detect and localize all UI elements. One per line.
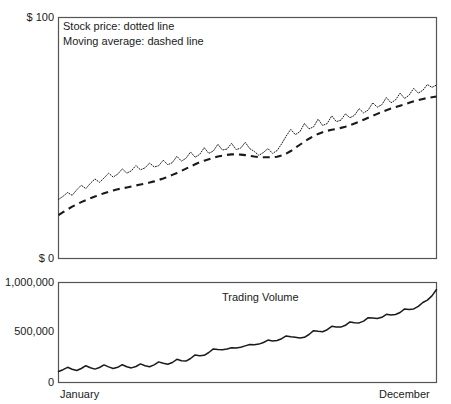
volume-axis-top-label: 1,000,000 — [0, 276, 54, 288]
volume-axis-bottom-label: 0 — [0, 376, 54, 388]
price-axis-top-label: $ 100 — [6, 11, 54, 23]
x-axis-end-label: December — [379, 388, 430, 400]
price-axis-bottom-label: $ 0 — [6, 252, 54, 264]
chart-canvas — [0, 0, 451, 404]
volume-axis-mid-label: 500,000 — [0, 325, 54, 337]
moving-average-line — [59, 97, 437, 216]
stock-chart-figure: Stock price: dotted line Moving average:… — [0, 0, 451, 404]
legend-item-moving-average: Moving average: dashed line — [63, 34, 204, 49]
x-axis-start-label: January — [60, 388, 99, 400]
price-legend: Stock price: dotted line Moving average:… — [63, 19, 204, 48]
trading-volume-label: Trading Volume — [222, 291, 299, 303]
price-panel-frame — [59, 18, 437, 259]
legend-item-stock-price: Stock price: dotted line — [63, 19, 204, 34]
stock-price-line — [59, 85, 437, 200]
